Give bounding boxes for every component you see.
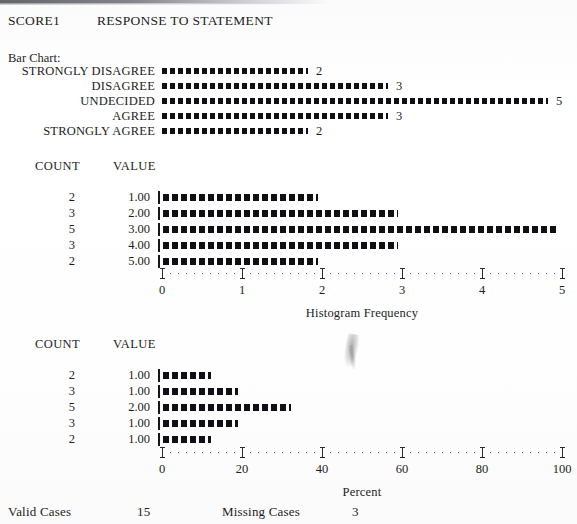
bar-chart-category-label: STRONGLY DISAGREE [0, 64, 155, 78]
histogram-frequency-value: 2.00 [108, 206, 150, 221]
bar-chart-bar [162, 128, 308, 134]
bar-chart-category-label: UNDECIDED [0, 94, 155, 108]
histogram-frequency-axis-tick [322, 268, 323, 279]
histogram-percent-axis-title: Percent [343, 486, 382, 498]
histogram-frequency-row: 32.00 [0, 206, 577, 221]
histogram-frequency-axis-tick-label: 4 [479, 284, 485, 296]
page-title: RESPONSE TO STATEMENT [97, 14, 273, 28]
freq-count-header: COUNT [35, 160, 80, 173]
bar-chart-category-label: STRONGLY AGREE [0, 124, 155, 138]
histogram-percent-axis-tick [402, 447, 403, 458]
histogram-percent-axis-tick [322, 447, 323, 458]
histogram-frequency-count: 2 [35, 190, 75, 205]
histogram-percent-bar [163, 388, 238, 395]
histogram-percent-bar [163, 420, 238, 427]
histogram-percent-axis-marker [158, 401, 160, 414]
histogram-frequency-axis-tick-label: 5 [559, 284, 565, 296]
histogram-frequency-bar [163, 194, 318, 201]
histogram-percent-axis-marker [158, 369, 160, 382]
pct-count-header: COUNT [35, 338, 80, 351]
histogram-frequency-count: 5 [35, 222, 75, 237]
histogram-percent-value: 2.00 [108, 400, 150, 415]
histogram-percent-count: 3 [35, 416, 75, 431]
bar-chart-value-label: 2 [316, 64, 322, 78]
histogram-frequency-axis-tick-label: 2 [319, 284, 325, 296]
histogram-frequency-row: 25.00 [0, 254, 577, 269]
histogram-frequency-row: 53.00 [0, 222, 577, 237]
bar-chart-row: STRONGLY AGREE2 [0, 124, 577, 138]
variable-name: SCORE1 [8, 14, 60, 28]
missing-cases-label: Missing Cases [222, 505, 300, 519]
missing-cases-value: 3 [352, 505, 359, 519]
valid-cases-label: Valid Cases [8, 505, 71, 519]
histogram-frequency-axis-marker [158, 191, 160, 204]
pct-value-header: VALUE [113, 338, 156, 351]
histogram-frequency-count: 3 [35, 206, 75, 221]
histogram-frequency-row: 21.00 [0, 190, 577, 205]
histogram-percent-bar [163, 436, 211, 443]
bar-chart-category-label: DISAGREE [0, 79, 155, 93]
histogram-percent-bar [163, 372, 211, 379]
histogram-percent-value: 1.00 [108, 432, 150, 447]
histogram-frequency-axis-tick [242, 268, 243, 279]
report-page: SCORE1 RESPONSE TO STATEMENT Bar Chart: … [0, 0, 577, 524]
histogram-percent-value: 1.00 [108, 384, 150, 399]
histogram-percent-count: 2 [35, 432, 75, 447]
histogram-percent-axis-tick [242, 447, 243, 458]
scan-edge-artifact-secondary [0, 3, 300, 5]
histogram-percent-axis-tick [562, 447, 563, 458]
bar-chart-value-label: 2 [316, 124, 322, 138]
bar-chart-bar [162, 68, 308, 74]
histogram-percent-axis-marker [158, 433, 160, 446]
histogram-percent-axis-tick-label: 100 [553, 463, 572, 475]
histogram-frequency-axis-tick [482, 268, 483, 279]
histogram-frequency-bar [163, 210, 398, 217]
histogram-frequency-axis-marker [158, 207, 160, 220]
histogram-percent-count: 5 [35, 400, 75, 415]
freq-value-header: VALUE [113, 160, 156, 173]
histogram-percent-axis-marker [158, 385, 160, 398]
histogram-frequency-axis-tick-label: 1 [239, 284, 245, 296]
bar-chart-value-label: 3 [396, 109, 402, 123]
histogram-percent-axis-tick [482, 447, 483, 458]
histogram-percent-axis-tick-label: 40 [316, 463, 329, 475]
bar-chart-category-label: AGREE [0, 109, 155, 123]
histogram-percent-value: 1.00 [108, 416, 150, 431]
bar-chart-row: STRONGLY DISAGREE2 [0, 64, 577, 78]
histogram-percent-bar [163, 404, 291, 411]
bar-chart-bar [162, 83, 388, 89]
histogram-percent-axis-tick-label: 0 [159, 463, 165, 475]
histogram-frequency-axis-tick-label: 3 [399, 284, 405, 296]
bar-chart-row: DISAGREE3 [0, 79, 577, 93]
histogram-frequency-axis-tick-label: 0 [159, 284, 165, 296]
histogram-frequency-bar [163, 242, 398, 249]
histogram-percent-axis: 020406080100 [0, 447, 577, 459]
histogram-percent-row: 21.00 [0, 432, 577, 447]
bar-chart-bar [162, 113, 388, 119]
histogram-percent-axis-marker [158, 417, 160, 430]
histogram-frequency-axis-marker [158, 255, 160, 268]
histogram-frequency-axis-tick [402, 268, 403, 279]
histogram-percent-axis-tick-label: 20 [236, 463, 249, 475]
bar-chart-value-label: 3 [396, 79, 402, 93]
histogram-frequency-value: 5.00 [108, 254, 150, 269]
histogram-frequency-axis: 012345 [0, 268, 577, 280]
histogram-frequency-count: 3 [35, 238, 75, 253]
bar-chart-value-label: 5 [556, 94, 562, 108]
histogram-frequency-bar [163, 258, 318, 265]
histogram-percent-count: 2 [35, 368, 75, 383]
histogram-frequency-count: 2 [35, 254, 75, 269]
histogram-frequency-axis-marker [158, 239, 160, 252]
histogram-frequency-value: 1.00 [108, 190, 150, 205]
bar-chart-caption: Bar Chart: [8, 52, 60, 65]
histogram-frequency-axis-line [162, 273, 562, 274]
histogram-percent-row: 52.00 [0, 400, 577, 415]
histogram-frequency-axis-title: Histogram Frequency [306, 307, 418, 319]
bar-chart-row: AGREE3 [0, 109, 577, 123]
histogram-percent-axis-tick-label: 80 [476, 463, 489, 475]
bar-chart-bar [162, 98, 548, 104]
histogram-percent-row: 31.00 [0, 416, 577, 431]
histogram-percent-row: 21.00 [0, 368, 577, 383]
histogram-frequency-bar [163, 226, 558, 233]
histogram-percent-axis-tick [162, 447, 163, 458]
